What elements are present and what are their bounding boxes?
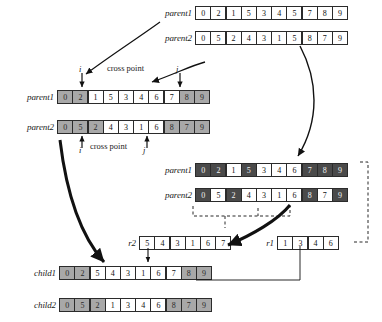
- cell: 3: [118, 90, 134, 104]
- cell: 6: [286, 163, 302, 177]
- row-mid-parent2: parent2 0 5 2 4 3 1 6 8 7 9: [12, 120, 210, 134]
- cell: 1: [271, 31, 287, 45]
- cell: 9: [194, 90, 210, 104]
- row-top-parent2: parent2 0 5 2 4 3 1 5 8 7 9: [148, 31, 348, 45]
- row-mid-parent1: parent1 0 2 1 5 3 4 6 7 8 9: [12, 90, 210, 104]
- cell: 2: [210, 6, 226, 20]
- cell: 3: [256, 163, 272, 177]
- cell: 4: [103, 120, 119, 134]
- cell: 1: [185, 236, 201, 250]
- cell: 3: [256, 6, 272, 20]
- cell: 6: [150, 266, 166, 280]
- cell: 7: [317, 188, 333, 202]
- cells-child2: 0 5 2 1 3 4 6 8 7 9: [60, 298, 212, 312]
- cell: 5: [286, 6, 302, 20]
- cell: 8: [181, 266, 197, 280]
- cell: 9: [196, 266, 212, 280]
- cell: 0: [57, 120, 73, 134]
- cell: 7: [179, 120, 195, 134]
- cell: 7: [164, 90, 180, 104]
- cell: 8: [317, 6, 333, 20]
- cell: 5: [103, 90, 119, 104]
- cell: 5: [241, 6, 257, 20]
- row-right-parent1: parent1 0 2 1 5 3 4 6 7 8 9: [148, 163, 348, 177]
- cell: 0: [195, 163, 211, 177]
- cell: 6: [148, 120, 164, 134]
- row-label-mid-parent2: parent2: [12, 122, 54, 132]
- cell: 5: [72, 120, 88, 134]
- cell: 3: [256, 31, 272, 45]
- row-label-top-parent2: parent2: [148, 33, 192, 43]
- cells-top-parent2: 0 5 2 4 3 1 5 8 7 9: [196, 31, 348, 45]
- cell: 3: [120, 298, 136, 312]
- cell: 0: [195, 188, 211, 202]
- cell: 3: [292, 236, 308, 250]
- cell: 4: [308, 236, 324, 250]
- cell: 8: [164, 120, 180, 134]
- row-r1: r1 1 3 4 6: [258, 236, 339, 250]
- cell: 3: [256, 188, 272, 202]
- cells-right-parent2: 0 5 2 4 3 1 6 8 7 9: [196, 188, 348, 202]
- cell: 9: [194, 120, 210, 134]
- row-label-r1: r1: [258, 238, 274, 248]
- cell: 4: [271, 6, 287, 20]
- cell: 8: [317, 163, 333, 177]
- cell: 2: [226, 31, 242, 45]
- cell: 8: [302, 188, 318, 202]
- caption-cross-point-upper: cross point: [107, 63, 144, 73]
- arrow-mid-parent2-to-child1: [60, 140, 104, 262]
- cell: 6: [148, 90, 164, 104]
- cell: 7: [166, 266, 182, 280]
- cell: 1: [135, 266, 151, 280]
- marker-i-upper: i: [79, 64, 81, 74]
- cell: 1: [88, 90, 104, 104]
- row-label-child2: child2: [20, 300, 56, 310]
- row-label-top-parent1: parent1: [148, 8, 192, 18]
- cell: 9: [332, 188, 348, 202]
- cell: 8: [302, 31, 318, 45]
- row-label-right-parent1: parent1: [148, 165, 192, 175]
- cell: 7: [181, 298, 197, 312]
- cell: 7: [302, 6, 318, 20]
- arrow-cross-point-upper: [152, 62, 205, 82]
- cell: 4: [241, 188, 257, 202]
- cell: 9: [196, 298, 212, 312]
- cell: 4: [154, 236, 170, 250]
- row-label-right-parent2: parent2: [148, 190, 192, 200]
- cell: 2: [210, 163, 226, 177]
- cells-mid-parent2: 0 5 2 4 3 1 6 8 7 9: [58, 120, 210, 134]
- cell: 0: [195, 6, 211, 20]
- cell: 8: [179, 90, 195, 104]
- cell: 9: [332, 163, 348, 177]
- row-child1: child1 0 2 5 4 3 1 6 7 8 9: [20, 266, 212, 280]
- cell: 9: [332, 31, 348, 45]
- cell: 4: [133, 90, 149, 104]
- cell: 5: [286, 31, 302, 45]
- cell: 7: [215, 236, 231, 250]
- cells-child1: 0 2 5 4 3 1 6 7 8 9: [60, 266, 212, 280]
- cells-r1: 1 3 4 6: [278, 236, 339, 250]
- row-label-r2: r2: [120, 238, 136, 248]
- caption-cross-point-lower: cross point: [90, 141, 127, 151]
- cell: 2: [226, 188, 242, 202]
- cell: 6: [150, 298, 166, 312]
- cell: 2: [72, 90, 88, 104]
- cells-top-parent1: 0 2 1 5 3 4 5 7 8 9: [196, 6, 348, 20]
- cell: 3: [170, 236, 186, 250]
- marker-j-lower: j: [143, 145, 145, 155]
- dashed-bracket-right-parent2: [193, 206, 290, 216]
- row-top-parent1: parent1 0 2 1 5 3 4 5 7 8 9: [148, 6, 348, 20]
- cell: 0: [57, 90, 73, 104]
- cell: 7: [302, 163, 318, 177]
- cell: 6: [323, 236, 339, 250]
- cell: 4: [241, 31, 257, 45]
- cell: 0: [59, 266, 75, 280]
- cell: 2: [90, 298, 106, 312]
- cell: 3: [118, 120, 134, 134]
- cell: 1: [226, 163, 242, 177]
- cell: 4: [135, 298, 151, 312]
- marker-i-lower: i: [79, 145, 81, 155]
- cells-mid-parent1: 0 2 1 5 3 4 6 7 8 9: [58, 90, 210, 104]
- cell: 4: [271, 163, 287, 177]
- cells-right-parent1: 0 2 1 5 3 4 6 7 8 9: [196, 163, 348, 177]
